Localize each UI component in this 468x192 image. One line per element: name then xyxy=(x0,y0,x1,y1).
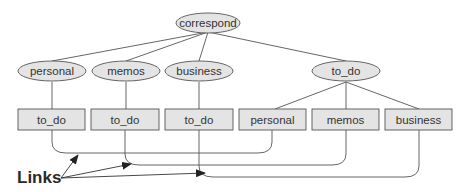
leaf-label: business xyxy=(396,114,442,126)
links-label: Links xyxy=(17,168,61,187)
link-business xyxy=(199,130,419,177)
edge-root-business xyxy=(199,32,208,61)
leaf-business-todo: to_do xyxy=(165,109,233,130)
node-label: business xyxy=(176,65,222,77)
node-memos: memos xyxy=(92,61,160,81)
edge-root-todo xyxy=(208,32,346,61)
node-label: correspond xyxy=(179,17,237,29)
links-annotation: Links xyxy=(17,155,205,187)
edge-todo-personal xyxy=(275,82,346,109)
leaf-todo-memos: memos xyxy=(312,109,379,130)
leaf-label: personal xyxy=(250,114,294,126)
leaf-label: to_do xyxy=(111,114,140,126)
edge-todo-business xyxy=(346,82,419,109)
arrow-to-link-1 xyxy=(61,155,78,178)
leaf-todo-personal: personal xyxy=(239,109,306,130)
edge-root-personal xyxy=(52,32,208,61)
leaf-todo-business: business xyxy=(385,109,452,130)
node-personal: personal xyxy=(18,61,86,81)
node-label: to_do xyxy=(332,65,361,77)
leaf-personal-todo: to_do xyxy=(18,109,85,130)
link-memos xyxy=(125,130,346,165)
node-correspond: correspond xyxy=(176,13,240,33)
leaf-label: memos xyxy=(327,114,365,126)
directory-tree-diagram: correspond personal memos business to_do… xyxy=(0,0,468,192)
node-todo: to_do xyxy=(312,61,380,81)
node-label: personal xyxy=(30,65,74,77)
leaf-label: to_do xyxy=(185,114,214,126)
leaf-memos-todo: to_do xyxy=(91,109,159,130)
node-business: business xyxy=(165,61,233,81)
node-label: memos xyxy=(107,65,145,77)
leaf-label: to_do xyxy=(37,114,66,126)
link-curves xyxy=(52,130,419,177)
link-personal xyxy=(52,130,272,153)
edge-root-memos xyxy=(126,32,208,61)
